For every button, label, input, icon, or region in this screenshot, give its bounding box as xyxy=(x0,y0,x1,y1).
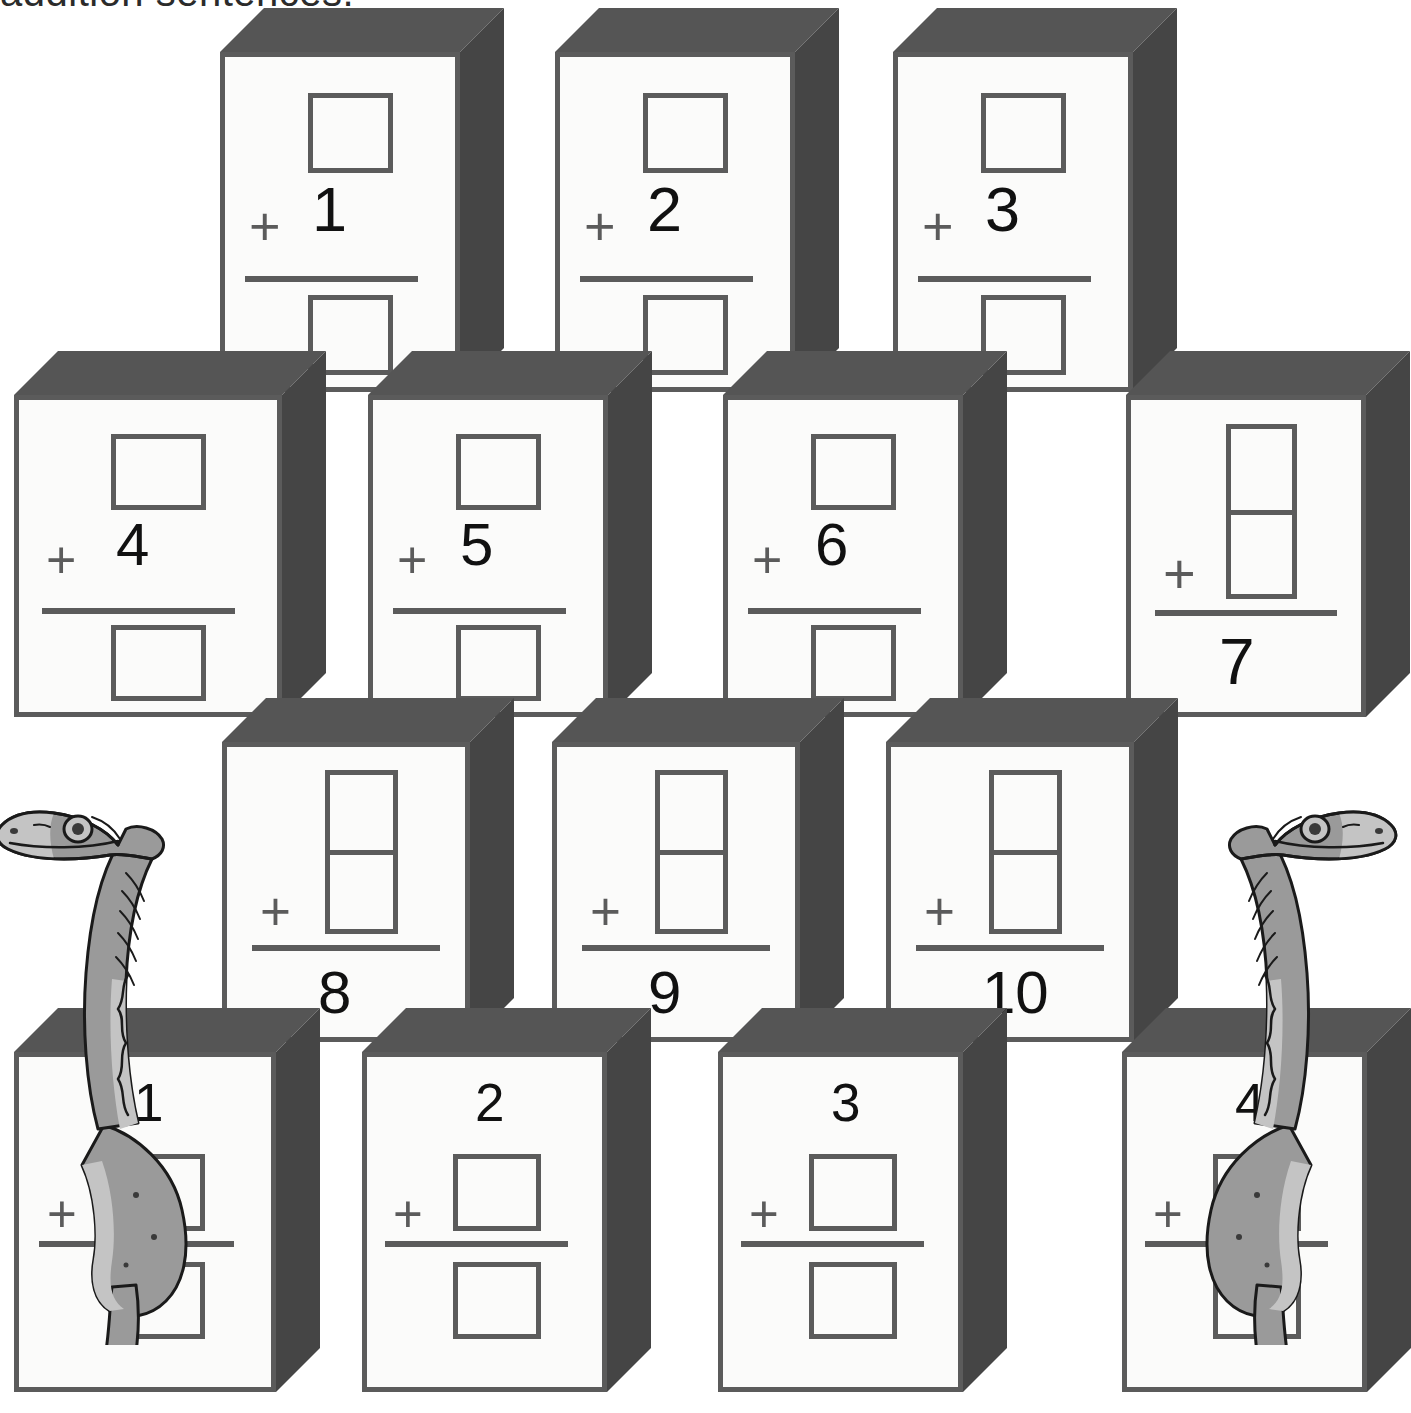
math-block: 3+ xyxy=(893,8,1177,392)
sum-rule xyxy=(42,608,235,614)
block-side-face xyxy=(1133,8,1177,392)
block-front-face: 1+ xyxy=(220,52,460,392)
addend-box[interactable] xyxy=(811,434,896,510)
block-side-face xyxy=(460,8,504,392)
addend-box[interactable] xyxy=(111,434,206,510)
math-block: 2+ xyxy=(362,1008,651,1392)
addend-number: 1 xyxy=(312,178,347,241)
block-front-face: +9 xyxy=(552,742,800,1042)
answer-box[interactable] xyxy=(809,1262,897,1339)
block-front-face: 2+ xyxy=(362,1052,607,1392)
math-block: 5+ xyxy=(368,351,652,717)
addend-number: 3 xyxy=(831,1076,860,1129)
block-top-face xyxy=(555,8,839,52)
addend-number: 4 xyxy=(116,515,149,575)
sum-rule xyxy=(918,276,1091,282)
domino-divider xyxy=(994,850,1057,855)
domino-box[interactable] xyxy=(655,770,728,934)
sum-rule xyxy=(393,608,566,614)
plus-sign: + xyxy=(749,1189,779,1240)
sum-rule xyxy=(580,276,753,282)
plus-sign: + xyxy=(260,885,291,938)
ornithomimid-dinosaur-left xyxy=(0,725,236,1345)
plus-sign: + xyxy=(590,885,621,938)
addend-number: 6 xyxy=(815,515,848,575)
math-block: +7 xyxy=(1126,351,1410,717)
addend-box[interactable] xyxy=(453,1154,541,1231)
block-top-face xyxy=(368,351,652,395)
addend-box[interactable] xyxy=(809,1154,897,1231)
block-front-face: 3+ xyxy=(718,1052,963,1392)
domino-divider xyxy=(660,850,723,855)
answer-box[interactable] xyxy=(111,625,206,701)
block-side-face xyxy=(608,351,652,717)
block-side-face xyxy=(963,1008,1007,1392)
block-side-face xyxy=(1366,351,1410,717)
block-side-face xyxy=(282,351,326,717)
block-top-face xyxy=(886,698,1178,742)
addend-number: 3 xyxy=(985,178,1020,241)
block-front-face: 3+ xyxy=(893,52,1133,392)
block-top-face xyxy=(14,351,326,395)
block-top-face xyxy=(222,698,514,742)
addend-box[interactable] xyxy=(308,93,393,173)
sum-number: 7 xyxy=(1219,630,1255,694)
block-front-face: 2+ xyxy=(555,52,795,392)
block-side-face xyxy=(963,351,1007,717)
domino-divider xyxy=(1231,510,1292,515)
domino-divider xyxy=(330,850,393,855)
ornithomimid-dinosaur-right xyxy=(1157,725,1407,1345)
math-block: 6+ xyxy=(723,351,1007,717)
domino-box[interactable] xyxy=(325,770,398,934)
math-block: +10 xyxy=(886,698,1178,1042)
sum-rule xyxy=(1155,610,1337,616)
answer-box[interactable] xyxy=(811,625,896,701)
block-side-face xyxy=(800,698,844,1042)
math-block: 1+ xyxy=(220,8,504,392)
domino-box[interactable] xyxy=(989,770,1062,934)
sum-rule xyxy=(385,1241,568,1247)
block-top-face xyxy=(552,698,844,742)
addend-number: 2 xyxy=(647,178,682,241)
block-front-face: 6+ xyxy=(723,395,963,717)
addend-box[interactable] xyxy=(643,93,728,173)
block-top-face xyxy=(1126,351,1410,395)
plus-sign: + xyxy=(249,199,281,253)
block-side-face xyxy=(276,1008,320,1392)
sum-rule xyxy=(916,945,1104,951)
plus-sign: + xyxy=(924,885,955,938)
addend-number: 2 xyxy=(475,1076,504,1129)
domino-box[interactable] xyxy=(1226,424,1297,599)
block-top-face xyxy=(723,351,1007,395)
plus-sign: + xyxy=(1163,546,1196,602)
math-block: +9 xyxy=(552,698,844,1042)
answer-box[interactable] xyxy=(456,625,541,701)
block-front-face: +10 xyxy=(886,742,1134,1042)
math-block: 4+ xyxy=(14,351,326,717)
answer-box[interactable] xyxy=(643,295,728,375)
block-top-face xyxy=(893,8,1177,52)
addend-box[interactable] xyxy=(981,93,1066,173)
block-front-face: +7 xyxy=(1126,395,1366,717)
plus-sign: + xyxy=(752,534,782,586)
sum-rule xyxy=(582,945,770,951)
addend-number: 5 xyxy=(460,515,493,575)
block-front-face: +8 xyxy=(222,742,470,1042)
block-top-face xyxy=(718,1008,1007,1052)
math-block: 3+ xyxy=(718,1008,1007,1392)
plus-sign: + xyxy=(393,1189,423,1240)
block-top-face xyxy=(362,1008,651,1052)
answer-box[interactable] xyxy=(453,1262,541,1339)
plus-sign: + xyxy=(922,199,954,253)
plus-sign: + xyxy=(397,534,427,586)
sum-rule xyxy=(741,1241,924,1247)
plus-sign: + xyxy=(46,534,76,586)
block-side-face xyxy=(470,698,514,1042)
math-block: +8 xyxy=(222,698,514,1042)
block-front-face: 4+ xyxy=(14,395,282,717)
addend-box[interactable] xyxy=(456,434,541,510)
sum-rule xyxy=(748,608,921,614)
block-top-face xyxy=(220,8,504,52)
math-block: 2+ xyxy=(555,8,839,392)
